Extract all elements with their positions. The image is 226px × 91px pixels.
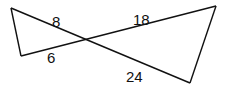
label-18: 18 [133,11,150,28]
triangle-diagram: 8 6 18 24 [0,0,226,91]
label-6: 6 [47,49,55,66]
label-24: 24 [126,68,143,85]
right-side [190,6,216,83]
label-8: 8 [52,13,60,30]
left-side [11,8,21,56]
